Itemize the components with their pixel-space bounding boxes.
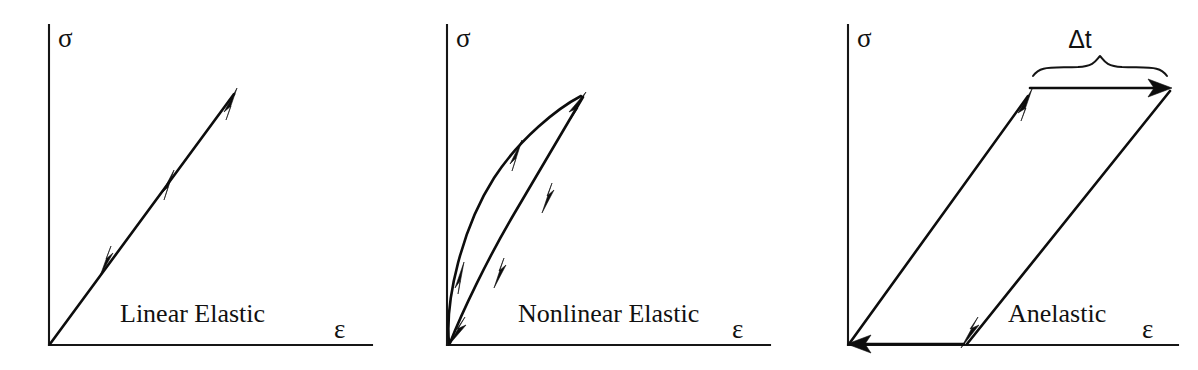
loop-origin-arrow-icon bbox=[448, 317, 466, 346]
panel-linear-elastic: σ ε Linear Elastic bbox=[0, 0, 400, 370]
panel-caption-anelastic: Anelastic bbox=[1008, 299, 1106, 328]
panel-caption-nonlinear-elastic: Nonlinear Elastic bbox=[518, 299, 699, 328]
panel-caption-linear-elastic: Linear Elastic bbox=[120, 299, 265, 328]
nonlinear-elastic-plot: σ ε Nonlinear Elastic bbox=[390, 0, 790, 370]
linear-elastic-plot: σ ε Linear Elastic bbox=[0, 0, 400, 370]
y-axis-label: σ bbox=[456, 23, 471, 53]
x-axis-label: ε bbox=[732, 314, 743, 344]
y-axis-label: σ bbox=[857, 23, 872, 53]
stress-strain-figure: σ ε Linear Elastic bbox=[0, 0, 1198, 370]
x-axis-label: ε bbox=[334, 314, 345, 344]
y-axis-label: σ bbox=[58, 23, 73, 53]
x-axis-label: ε bbox=[1142, 314, 1153, 344]
unloading-arrow-lower-icon bbox=[494, 258, 506, 288]
anelastic-plot: Δt σ ε Anelastic bbox=[790, 0, 1198, 370]
unloading-arrow-upper-icon bbox=[542, 183, 554, 213]
mid-arrow-up-icon bbox=[162, 170, 174, 200]
delta-t-brace-icon bbox=[1033, 56, 1167, 76]
panel-anelastic: Δt σ ε Anelastic bbox=[790, 0, 1198, 370]
delta-t-label: Δt bbox=[1068, 25, 1092, 53]
loading-ramp-line bbox=[849, 96, 1028, 344]
panel-nonlinear-elastic: σ ε Nonlinear Elastic bbox=[390, 0, 790, 370]
